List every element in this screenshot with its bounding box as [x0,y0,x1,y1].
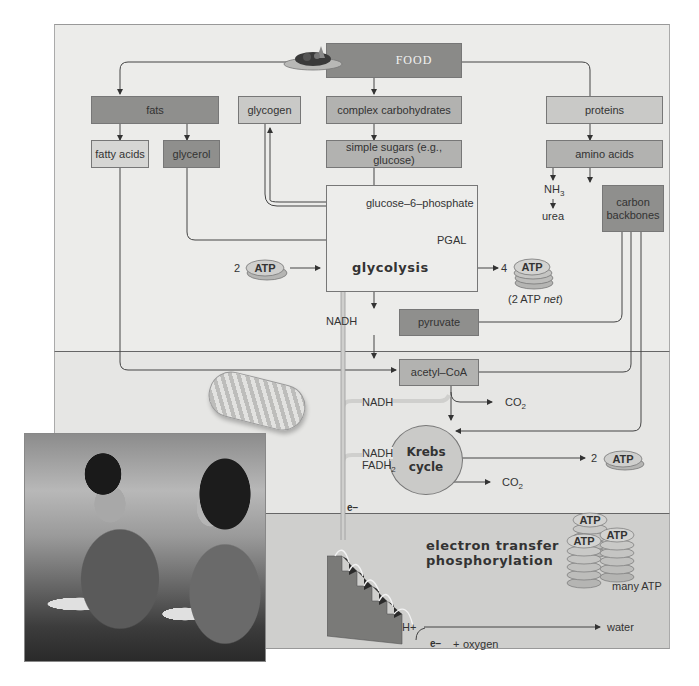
fats-box: fats [91,96,219,124]
fats-label: fats [146,104,164,117]
atp-net-emphasis: net [544,293,559,305]
pgal-label: PGAL [437,234,466,246]
plus-label: + [453,638,459,650]
atp-net-label: (2 ATP net) [508,293,563,305]
svg-text:ATP: ATP [612,453,633,465]
complex-carbohydrates-box: complex carbohydrates [326,96,462,124]
co2-text: CO [505,396,522,408]
people-eating-photo [24,433,266,662]
nadh-glycolysis-label: NADH [326,315,357,327]
simple-sugars-box: simple sugars (e.g., glucose) [326,140,462,168]
acetyl-coa-box: acetyl–CoA [399,359,479,386]
atp-out-count: 4 [501,262,507,274]
water-label: water [607,621,634,633]
amino-acids-label: amino acids [575,148,634,161]
atp-coin-icon: ATP [245,256,289,282]
salad-bowl-icon [283,42,343,72]
krebs-label-line2: cycle [409,460,443,475]
food-label: FOOD [396,54,433,67]
ammonia-label: NH3 [544,183,564,198]
glycogen-box: glycogen [238,96,301,124]
svg-text:ATP: ATP [579,514,600,526]
fatty-acids-box: fatty acids [91,140,149,168]
proteins-box: proteins [546,96,663,124]
proteins-label: proteins [585,104,624,117]
atp-krebs-count: 2 [591,452,597,464]
h-plus-label: H+ [402,621,416,633]
krebs-label-line1: Krebs [406,445,445,460]
glycerol-label: glycerol [173,148,211,161]
amino-acids-box: amino acids [546,140,663,168]
oxygen-label: oxygen [463,638,498,650]
svg-text:ATP: ATP [254,262,275,274]
food-box: FOOD [326,43,462,78]
glycogen-label: glycogen [247,104,291,117]
atp-krebs-coin-icon: ATP [602,447,646,473]
electron-top-label: e− [347,502,358,513]
svg-text:ATP: ATP [606,529,627,541]
electron-bottom-label: e− [430,638,441,649]
nadh-acetyl-label: NADH [362,396,393,408]
ammonia-subscript: 3 [560,189,564,198]
etp-label-line2: phosphorylation [426,553,553,568]
glucose-6-phosphate-label: glucose–6–phosphate [366,197,474,209]
complex-carbohydrates-label: complex carbohydrates [337,104,451,117]
pyruvate-label: pyruvate [418,316,460,329]
co2-krebs-label: CO2 [502,476,523,491]
fatty-acids-label: fatty acids [95,148,145,161]
fadh2-krebs-label: FADH2 [362,459,396,476]
glycerol-box: glycerol [163,140,220,168]
co2-subscript: 2 [522,402,526,411]
carbon-backbones-line2: backbones [606,209,659,222]
atp-net-close: ) [559,293,563,305]
carbon-backbones-box: carbon backbones [602,185,664,232]
ammonia-text: NH [544,183,560,195]
fadh2-text: FADH [362,459,391,471]
nadh-krebs-label: NADH [362,447,393,459]
svg-text:ATP: ATP [573,535,594,547]
co2-krebs-text: CO [502,476,519,488]
pyruvate-box: pyruvate [399,309,479,336]
co2-krebs-subscript: 2 [519,482,523,491]
carbon-backbones-line1: carbon [616,196,650,209]
fadh2-subscript: 2 [391,465,395,474]
glycolysis-label: glycolysis [352,260,429,275]
krebs-cycle-circle: Krebs cycle [389,425,463,495]
many-atp-label: many ATP [612,580,662,592]
atp-net-text: (2 ATP [508,293,544,305]
atp-in-count: 2 [234,262,240,274]
many-atp-stacks-icon: ATP ATP ATP [564,505,644,590]
svg-text:ATP: ATP [521,261,542,273]
acetyl-coa-label: acetyl–CoA [411,366,467,379]
simple-sugars-label: simple sugars (e.g., glucose) [327,141,461,167]
etp-label-line1: electron transfer [426,538,559,553]
urea-label: urea [542,210,564,222]
atp-stack-icon: ATP [512,256,556,290]
co2-acetyl-label: CO2 [505,396,526,411]
